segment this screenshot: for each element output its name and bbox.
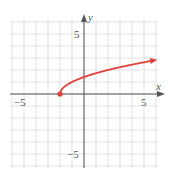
x-tick-5: 5 (141, 96, 147, 108)
function-graph: y x −5 5 5 −5 (0, 0, 171, 179)
y-tick-5: 5 (74, 28, 80, 40)
y-axis-arrow-icon (81, 14, 87, 22)
start-point-dot (57, 91, 62, 96)
y-axis-label: y (87, 11, 93, 23)
curve-sqrt (60, 61, 153, 94)
y-tick-neg5: −5 (67, 148, 79, 160)
x-axis-label: x (155, 80, 161, 92)
y-axis (81, 14, 87, 168)
x-tick-neg5: −5 (14, 96, 26, 108)
